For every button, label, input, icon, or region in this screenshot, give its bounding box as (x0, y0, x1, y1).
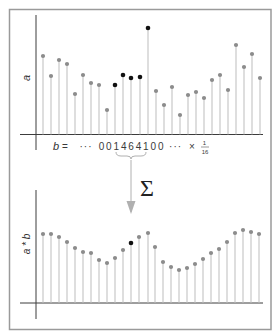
kernel-digit: 0 (99, 141, 106, 152)
sample-dot (249, 230, 253, 234)
kernel-digit: 1 (143, 141, 150, 152)
sample-dot (73, 246, 77, 250)
sample-dot (65, 62, 69, 66)
sample-dot (146, 231, 150, 235)
sigma-sum-icon: Σ (140, 175, 154, 201)
highlighted-sample-dot (138, 75, 143, 80)
highlighted-sample-dot (146, 26, 151, 31)
sample-dot (89, 251, 93, 255)
kernel-digit: 6 (128, 141, 135, 152)
highlighted-sample-dot (129, 241, 134, 246)
sample-dot (209, 251, 213, 255)
kernel-equals: = (62, 141, 69, 152)
sample-dot (225, 240, 229, 244)
bottom-y-label: a * b (21, 233, 32, 254)
sample-dot (170, 85, 174, 89)
kernel-digit: 0 (106, 141, 113, 152)
ellipsis-left: ··· (80, 141, 93, 152)
sample-dot (162, 103, 166, 107)
sample-dot (185, 266, 189, 270)
sample-dot (161, 260, 165, 264)
sample-dot (210, 78, 214, 82)
sample-dot (233, 231, 237, 235)
sample-dot (49, 74, 53, 78)
sample-dot (137, 235, 141, 239)
sample-dot (153, 245, 157, 249)
sample-dot (97, 83, 101, 87)
sample-dot (105, 261, 109, 265)
sample-dot (81, 250, 85, 254)
sample-dot (234, 43, 238, 47)
kernel-digit: 4 (121, 141, 128, 152)
kernel-digit: 0 (151, 141, 158, 152)
sample-dot (57, 235, 61, 239)
sample-dot (178, 113, 182, 117)
sample-dot (186, 93, 190, 97)
kernel-digit: 0 (158, 141, 165, 152)
highlighted-sample-dot (129, 76, 134, 81)
sample-dot (73, 92, 77, 96)
sample-dot (41, 54, 45, 58)
sample-dot (242, 65, 246, 69)
sample-dot (81, 73, 85, 77)
kernel-lhs: b (53, 140, 59, 152)
kernel-digit: 1 (114, 141, 121, 152)
sample-dot (217, 247, 221, 251)
sample-dot (49, 232, 53, 236)
sample-dot (201, 257, 205, 261)
sample-dot (241, 228, 245, 232)
kernel-scale-numerator: 1 (203, 140, 207, 146)
sample-dot (194, 90, 198, 94)
sample-dot (226, 88, 230, 92)
highlighted-sample-dot (121, 73, 126, 78)
sample-dot (177, 268, 181, 272)
sample-dot (154, 89, 158, 93)
sample-dot (105, 108, 109, 112)
kernel-times: × (189, 141, 196, 152)
sample-dot (169, 265, 173, 269)
sample-dot (202, 96, 206, 100)
sample-dot (257, 232, 261, 236)
diagram-frame (10, 10, 272, 330)
sample-dot (41, 232, 45, 236)
sample-dot (258, 76, 262, 80)
sample-dot (218, 73, 222, 77)
sample-dot (57, 58, 61, 62)
sample-dot (193, 262, 197, 266)
kernel-scale-denominator: 16 (202, 149, 209, 155)
sample-dot (113, 256, 117, 260)
top-y-label: a (20, 75, 32, 81)
kernel-digit: 4 (136, 141, 143, 152)
convolution-diagram: a b = ···001464100··· × 1 16 Σ a * b (0, 0, 279, 336)
sample-dot (121, 248, 125, 252)
sample-dot (97, 258, 101, 262)
highlighted-sample-dot (113, 83, 118, 88)
sample-dot (65, 240, 69, 244)
sample-dot (250, 52, 254, 56)
ellipsis-right: ··· (169, 141, 182, 152)
sample-dot (89, 81, 93, 85)
